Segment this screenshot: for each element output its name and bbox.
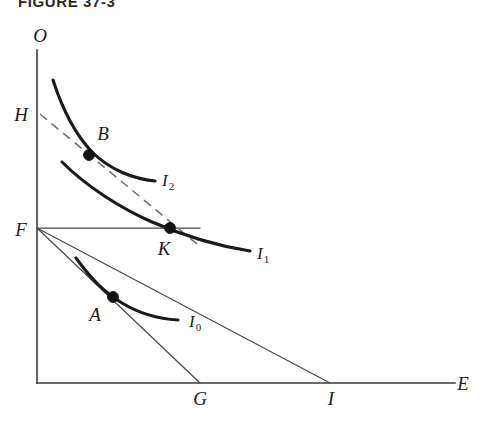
axis-point-label-f: F: [14, 219, 27, 240]
point-dot-k: [165, 223, 176, 234]
axis-point-label-i: I: [327, 388, 336, 409]
point-label-a: A: [87, 304, 101, 325]
indifference-curve-diagram: O E H F G I A B K I0 I1 I2: [0, 0, 487, 421]
point-dot-b: [84, 150, 95, 161]
axes-group: [37, 50, 455, 383]
budget-lines-group: [37, 114, 330, 383]
budget-line-fg: [37, 228, 200, 383]
y-axis-label: O: [33, 25, 47, 46]
x-axis-label: E: [456, 373, 469, 394]
curve-label-i2-sub: 2: [169, 180, 175, 192]
curve-label-i0-sub: 0: [196, 321, 202, 333]
curve-label-i1-sub: 1: [264, 253, 270, 265]
point-label-k: K: [157, 238, 172, 259]
point-dot-a: [108, 292, 119, 303]
axis-point-label-g: G: [193, 388, 207, 409]
figure-root: FIGURE 37-3 O E H F: [0, 0, 487, 421]
curve-label-i0: I0: [188, 312, 202, 333]
curve-label-i1-group: I1: [256, 244, 269, 265]
indifference-curve-i1: [62, 162, 250, 251]
curve-label-i2: I2: [161, 171, 174, 192]
axis-point-label-h: H: [13, 104, 29, 125]
point-label-b: B: [97, 123, 109, 144]
curve-label-i0-group: I0: [188, 312, 202, 333]
curve-label-i1: I1: [256, 244, 269, 265]
budget-line-fi: [37, 228, 330, 383]
indifference-curves-group: [53, 80, 250, 320]
curve-label-i2-group: I2: [161, 171, 174, 192]
